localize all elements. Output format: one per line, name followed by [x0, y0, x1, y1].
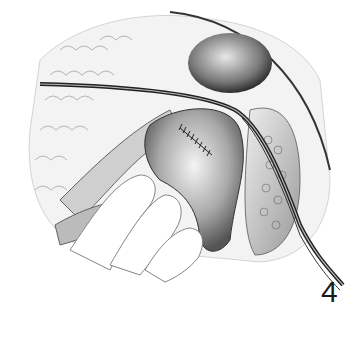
- figure-number: 4: [321, 277, 338, 307]
- surgical-illustration: [0, 0, 352, 363]
- organ-top: [188, 33, 272, 93]
